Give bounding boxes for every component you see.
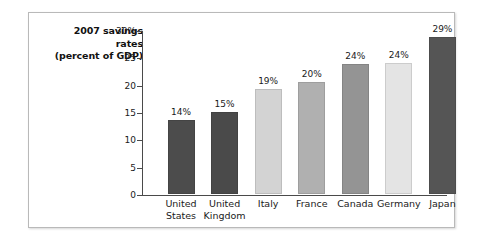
x-axis-category-label-line-1: Italy <box>258 198 279 209</box>
plot-area: 30%2520151050 14%UnitedStates15%UnitedKi… <box>142 31 447 195</box>
bar[interactable] <box>255 89 282 195</box>
bar[interactable] <box>429 37 456 194</box>
x-axis-category-label-line-1: United <box>209 198 240 209</box>
y-axis-line <box>142 31 143 195</box>
y-tick-label: 20 <box>96 81 136 91</box>
bar-value-label: 15% <box>215 99 235 109</box>
bar-group[interactable]: 19%Italy <box>255 30 282 194</box>
x-axis-category-label-line-1: France <box>296 198 328 209</box>
bar-value-label: 24% <box>389 50 409 60</box>
x-axis-category-label: Canada <box>337 198 373 210</box>
bar-group[interactable]: 24%Germany <box>385 30 412 194</box>
y-tick-label: 5 <box>96 163 136 173</box>
x-axis-category-label-line-1: United <box>165 198 196 209</box>
x-axis-category-label-line-1: Japan <box>429 198 456 209</box>
x-axis-category-label-line-2: States <box>165 210 196 222</box>
x-axis-category-label: Germany <box>377 198 421 210</box>
x-axis-category-label: Japan <box>429 198 456 210</box>
y-tick-mark <box>137 31 142 32</box>
bar-group[interactable]: 15%UnitedKingdom <box>211 30 238 194</box>
y-tick-mark <box>137 195 142 196</box>
y-tick-label: 30% <box>96 26 136 36</box>
y-tick-mark <box>137 58 142 59</box>
bar-value-label: 20% <box>302 69 322 79</box>
bar-group[interactable]: 14%UnitedStates <box>168 30 195 194</box>
bar-value-label: 19% <box>258 76 278 86</box>
x-axis-category-label-line-2: Kingdom <box>204 210 246 222</box>
x-axis-category-label: France <box>296 198 328 210</box>
x-axis-line <box>142 195 447 196</box>
bar-value-label: 29% <box>432 24 452 34</box>
bar[interactable] <box>298 82 325 194</box>
bar[interactable] <box>168 120 195 194</box>
bar-group[interactable]: 20%France <box>298 30 325 194</box>
y-tick-label: 25 <box>96 53 136 63</box>
bar-group[interactable]: 29%Japan <box>429 30 456 194</box>
y-axis-tick-labels: 30%2520151050 <box>96 31 136 195</box>
x-axis-category-label: UnitedStates <box>165 198 196 221</box>
x-axis-category-label: UnitedKingdom <box>204 198 246 221</box>
y-tick-label: 15 <box>96 108 136 118</box>
x-axis-category-label-line-1: Canada <box>337 198 373 209</box>
y-tick-mark <box>137 140 142 141</box>
y-tick-label: 0 <box>96 190 136 200</box>
figure-root: 2007 savings rates (percent of GDP) 30%2… <box>0 0 480 243</box>
bar[interactable] <box>211 112 238 194</box>
y-tick-mark <box>137 86 142 87</box>
x-axis-category-label-line-1: Germany <box>377 198 421 209</box>
bar[interactable] <box>385 63 412 194</box>
bar[interactable] <box>342 64 369 194</box>
y-tick-label: 10 <box>96 135 136 145</box>
bar-value-label: 14% <box>171 107 191 117</box>
y-tick-mark <box>137 168 142 169</box>
bar-group[interactable]: 24%Canada <box>342 30 369 194</box>
x-axis-category-label: Italy <box>258 198 279 210</box>
bar-value-label: 24% <box>345 51 365 61</box>
chart-panel: 2007 savings rates (percent of GDP) 30%2… <box>28 12 455 228</box>
y-tick-mark <box>137 113 142 114</box>
